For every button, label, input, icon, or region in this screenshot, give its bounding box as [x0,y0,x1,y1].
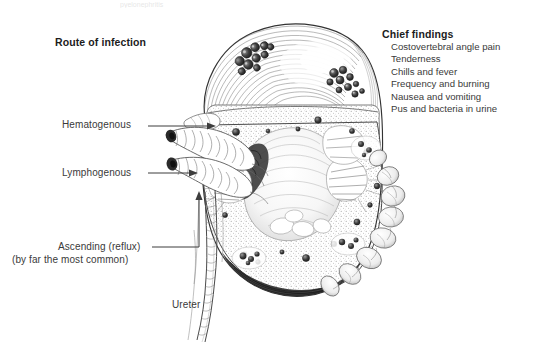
route-of-infection-heading: Route of infection [55,36,146,49]
label-ascending-reflux: Ascending (reflux) [58,241,140,253]
label-lymphogenous: Lymphogenous [62,167,131,179]
finding-item: Costovertebral angle pain [391,41,500,53]
chief-findings-heading: Chief findings [382,28,453,41]
abscess-cluster-lower-left [232,247,266,269]
finding-item: Frequency and burning [391,78,500,90]
figure-canvas: pyelonephritis [0,0,534,351]
finding-item: Nausea and vomiting [391,91,500,103]
finding-item: Tenderness [391,53,500,65]
finding-item: Chills and fever [391,66,500,78]
label-ascending-note: (by far the most common) [12,254,128,266]
finding-item: Pus and bacteria in urine [391,103,500,115]
chief-findings-list: Costovertebral angle pain Tenderness Chi… [391,41,500,115]
label-ureter: Ureter [172,299,200,311]
label-hematogenous: Hematogenous [62,119,131,131]
